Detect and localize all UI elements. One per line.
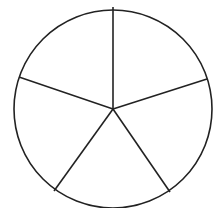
pie-diagram — [0, 0, 219, 208]
